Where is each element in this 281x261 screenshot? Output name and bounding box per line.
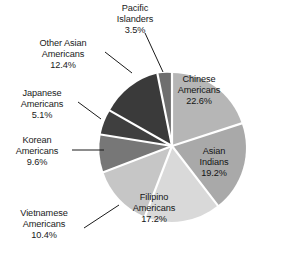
label-chinese-americans-line1: Chinese (163, 74, 235, 85)
label-japanese-americans-line2: Americans (6, 99, 78, 110)
label-other-asian-americans: Other Asian Americans 12.4% (22, 38, 104, 70)
label-vietnamese-americans-line1: Vietnamese (4, 208, 84, 219)
label-filipino-americans-line2: Americans (118, 203, 190, 214)
label-japanese-americans: Japanese Americans 5.1% (6, 88, 78, 120)
label-other-asian-americans-line1: Other Asian (22, 38, 104, 49)
pie-chart: Pacific Islanders 3.5% Other Asian Ameri… (0, 0, 281, 261)
label-vietnamese-americans: Vietnamese Americans 10.4% (4, 208, 84, 240)
label-korean-americans-line1: Korean (2, 135, 72, 146)
label-chinese-americans-value: 22.6% (163, 96, 235, 107)
label-filipino-americans-value: 17.2% (118, 214, 190, 225)
leader-line-other-asian-americans (105, 52, 132, 73)
label-pacific-islanders: Pacific Islanders 3.5% (98, 3, 172, 35)
label-japanese-americans-value: 5.1% (6, 110, 78, 121)
label-asian-indians-value: 19.2% (182, 168, 246, 179)
label-asian-indians-line2: Indians (182, 157, 246, 168)
label-vietnamese-americans-value: 10.4% (4, 230, 84, 241)
label-pacific-islanders-value: 3.5% (98, 25, 172, 36)
leader-line-pacific-islanders (145, 33, 163, 72)
label-filipino-americans-line1: Filipino (118, 192, 190, 203)
label-other-asian-americans-value: 12.4% (22, 60, 104, 71)
label-korean-americans-line2: Americans (2, 146, 72, 157)
label-other-asian-americans-line2: Americans (22, 49, 104, 60)
label-pacific-islanders-line2: Islanders (98, 14, 172, 25)
leader-line-vietnamese-americans (84, 205, 119, 228)
label-vietnamese-americans-line2: Americans (4, 219, 84, 230)
label-chinese-americans-line2: Americans (163, 85, 235, 96)
leader-line-japanese-americans (78, 102, 101, 119)
label-korean-americans-value: 9.6% (2, 157, 72, 168)
label-asian-indians-line1: Asian (182, 146, 246, 157)
label-asian-indians: Asian Indians 19.2% (182, 146, 246, 178)
label-filipino-americans: Filipino Americans 17.2% (118, 192, 190, 224)
label-pacific-islanders-line1: Pacific (98, 3, 172, 14)
label-korean-americans: Korean Americans 9.6% (2, 135, 72, 167)
label-japanese-americans-line1: Japanese (6, 88, 78, 99)
label-chinese-americans: Chinese Americans 22.6% (163, 74, 235, 106)
